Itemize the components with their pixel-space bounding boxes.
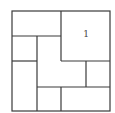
- region-label: 1: [83, 29, 89, 39]
- square-dissection-diagram: 1: [0, 0, 115, 113]
- region-labels: 1: [83, 29, 89, 39]
- dividing-lines: [12, 11, 110, 111]
